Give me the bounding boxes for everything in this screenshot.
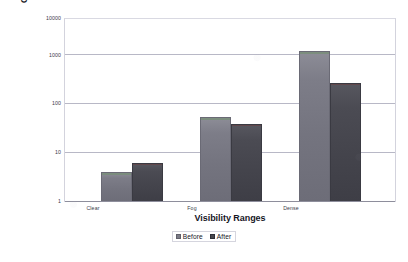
bar-fog-before[interactable] [200,117,231,201]
legend-swatch-after-icon [210,234,215,239]
bar-group-fog [192,19,270,201]
y-tick-label-1: 1 [21,198,61,204]
bar-dense-before[interactable] [299,51,330,201]
y-tick-label-1000: 1000 [21,52,61,58]
x-tick-label-fog: Fog [152,205,232,211]
legend-item-after[interactable]: After [210,233,231,240]
bar-group-clear [93,19,171,201]
bar-clear-before[interactable] [101,172,132,201]
bar-group-dense [291,19,369,201]
x-tick-label-dense: Dense [251,205,331,211]
bar-fog-after[interactable] [231,124,262,201]
legend-item-before[interactable]: Before [176,233,203,240]
bar-dense-after[interactable] [330,83,361,201]
gridline-1 [65,201,395,202]
y-tick-label-10: 10 [21,149,61,155]
x-axis-title: Visibility Ranges [64,213,396,223]
legend-swatch-before-icon [176,234,181,239]
legend-label-before: Before [183,233,203,240]
legend-box: Before After [172,231,236,242]
y-axis-title-line-1: Collisions per million encounter [19,0,30,3]
bar-chart: Collisions per million encounter situati… [0,0,408,262]
plot-area [64,18,396,202]
bar-clear-after[interactable] [132,163,163,202]
y-tick-label-10000: 10000 [21,15,61,21]
x-tick-label-clear: Clear [53,205,133,211]
legend: Before After [0,231,408,242]
legend-label-after: After [217,233,231,240]
y-tick-label-100: 100 [21,100,61,106]
